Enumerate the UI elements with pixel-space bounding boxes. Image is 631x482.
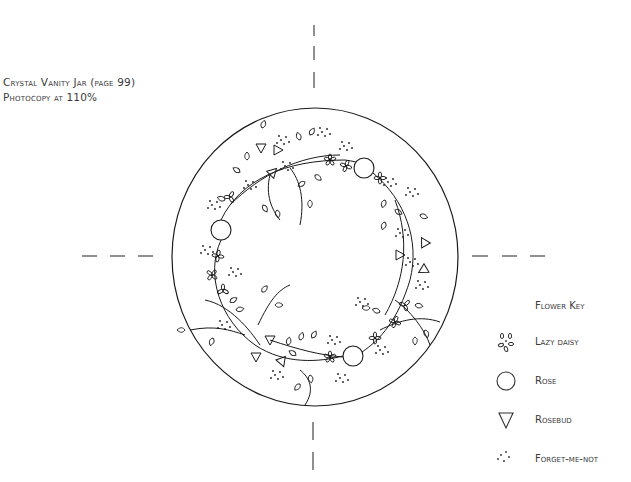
forget-me-not-icon <box>497 451 510 462</box>
roses <box>211 158 374 366</box>
rosebud-icon <box>499 413 513 428</box>
rosebuds <box>251 144 430 368</box>
wreath-stems <box>190 155 440 405</box>
rose-left <box>211 220 231 240</box>
legend-title: Flower Key <box>535 300 585 311</box>
rose-icon <box>497 372 515 390</box>
crosshair-marks <box>82 25 545 470</box>
legend-label-rosebud: Rosebud <box>535 414 572 425</box>
lazy-daisy-clusters <box>206 154 410 363</box>
rose-top-right <box>354 158 374 178</box>
lazy-daisy-icon <box>498 333 514 352</box>
legend-icons <box>497 333 515 462</box>
embroidery-pattern <box>0 0 631 482</box>
legend-label-lazy-daisy: Lazy daisy <box>535 336 578 347</box>
legend-label-rose: Rose <box>535 375 556 386</box>
forget-me-not-clusters <box>200 127 429 383</box>
legend-label-forget-me-not: Forget-me-not <box>535 453 598 464</box>
rose-bottom <box>343 346 363 366</box>
